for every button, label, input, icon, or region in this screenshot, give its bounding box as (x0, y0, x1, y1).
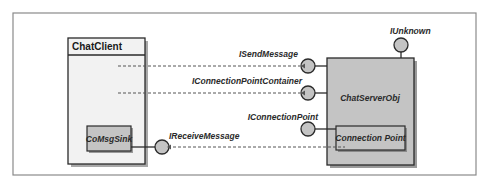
iconnectionpoint-label: IConnectionPoint (248, 112, 320, 122)
co-msg-sink-box: CoMsgSink (86, 126, 134, 153)
isendmessage-label: ISendMessage (239, 49, 298, 59)
co-msg-sink-label: CoMsgSink (86, 134, 134, 144)
iunknown-label: IUnknown (390, 26, 431, 36)
connection-point-label: Connection Point (335, 133, 407, 143)
connection-point-box: Connection Point (335, 126, 407, 152)
ireceivemessage-label: IReceiveMessage (169, 131, 240, 141)
com-connection-point-diagram: ChatClient CoMsgSink ChatServerObj Conne… (0, 0, 487, 194)
chat-client-title: ChatClient (72, 41, 123, 52)
iconnectionpointcontainer-label: IConnectionPointContainer (192, 76, 303, 86)
chat-server-obj-label: ChatServerObj (340, 93, 400, 103)
